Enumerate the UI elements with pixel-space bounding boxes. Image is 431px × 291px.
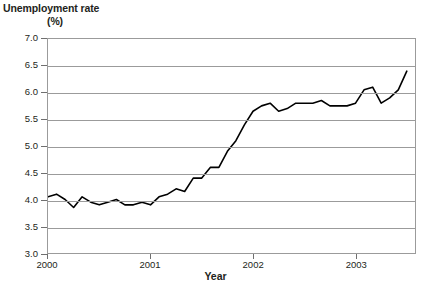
y-axis-tick — [41, 65, 47, 66]
y-axis-title-units: (%) — [3, 15, 107, 28]
gridline — [48, 120, 415, 121]
gridline — [48, 93, 415, 94]
y-axis-label: 3.5 — [4, 221, 38, 232]
y-axis-label: 3.0 — [4, 248, 38, 259]
x-axis-title: Year — [0, 270, 431, 282]
y-axis-label: 6.5 — [4, 59, 38, 70]
y-axis-label: 4.0 — [4, 194, 38, 205]
x-axis-label: 2003 — [346, 259, 367, 270]
gridline — [48, 66, 415, 67]
y-axis-tick — [41, 92, 47, 93]
y-axis-title: Unemployment rate (%) — [3, 2, 107, 27]
y-axis-tick — [41, 173, 47, 174]
y-axis-label: 7.0 — [4, 32, 38, 43]
gridline — [48, 147, 415, 148]
y-axis-label: 5.0 — [4, 140, 38, 151]
plot-area — [47, 38, 416, 254]
y-axis-label: 4.5 — [4, 167, 38, 178]
y-axis-tick — [41, 119, 47, 120]
x-axis-label: 2000 — [36, 259, 57, 270]
gridline — [48, 174, 415, 175]
y-axis-tick — [41, 38, 47, 39]
y-axis-label: 6.0 — [4, 86, 38, 97]
x-axis-label: 2001 — [139, 259, 160, 270]
x-axis-label: 2002 — [243, 259, 264, 270]
y-axis-tick — [41, 227, 47, 228]
unemployment-rate-chart: Unemployment rate (%) Year 3.03.54.04.55… — [0, 0, 431, 291]
y-axis-tick — [41, 200, 47, 201]
y-axis-label: 5.5 — [4, 113, 38, 124]
gridline — [48, 201, 415, 202]
y-axis-tick — [41, 146, 47, 147]
gridline — [48, 228, 415, 229]
y-axis-title-line1: Unemployment rate — [3, 2, 99, 14]
